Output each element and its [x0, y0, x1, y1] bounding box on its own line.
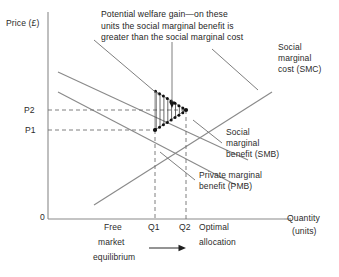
optimal-allocation-point [184, 108, 188, 112]
free-market-line-1: Free [104, 222, 122, 233]
price-tick-p1: P1 [25, 125, 36, 136]
pmb-label-leader [160, 152, 195, 180]
smb-label-line-2: marginal [226, 138, 259, 149]
origin-label: 0 [40, 212, 45, 223]
y-axis-label: Price (£) [6, 18, 39, 29]
smb-curve [58, 72, 248, 160]
smc-label-line-3: cost (SMC) [278, 64, 322, 75]
transition-arrow-head [179, 245, 187, 251]
smc-label-leader [212, 49, 258, 90]
annotation-line-3: greater than the social marginal cost [101, 32, 243, 44]
welfare-gain-diagram: Price (£) 0 P2 P1 Q1 Q2 Potential welfar… [0, 0, 339, 277]
quantity-tick-q2: Q2 [179, 222, 191, 233]
annotation-line-2: units the social marginal benefit is [101, 21, 234, 33]
pmb-label-line-1: Private marginal [199, 170, 262, 181]
annotation-leader-arrowhead [169, 102, 175, 109]
free-market-line-2: market [98, 237, 125, 248]
smc-label-line-1: Social [278, 42, 302, 53]
pmb-label-line-2: benefit (PMB) [199, 181, 252, 192]
smb-label-line-3: benefit (SMB) [226, 149, 279, 160]
x-axis-label-line-1: Quantity [287, 213, 320, 224]
price-tick-p2: P2 [24, 105, 35, 116]
x-axis-label-line-2: (units) [292, 226, 317, 237]
free-market-equilibrium-point [153, 128, 157, 132]
optimal-line-2: allocation [199, 237, 236, 248]
optimal-line-1: Optimal [199, 222, 229, 233]
smc-label-line-2: marginal [278, 53, 311, 64]
quantity-tick-q1: Q1 [148, 222, 160, 233]
annotation-line-1: Potential welfare gain—on these [101, 9, 228, 21]
smb-label-line-1: Social [226, 127, 250, 138]
annotation-leader-diagonal [94, 40, 160, 96]
free-market-line-3: equilibrium [93, 252, 135, 263]
